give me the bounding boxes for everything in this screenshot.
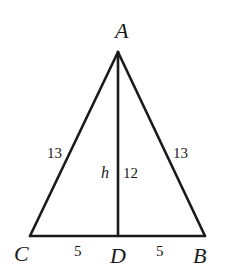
vertex-label-c: C	[14, 241, 29, 266]
side-ab	[118, 52, 205, 236]
vertex-label-a: A	[113, 18, 129, 43]
length-label-ad: 12	[123, 165, 138, 181]
vertex-label-d: D	[109, 243, 126, 268]
vertex-label-b: B	[193, 243, 206, 268]
length-label-db: 5	[156, 243, 164, 259]
length-label-ac: 13	[47, 145, 62, 161]
altitude-name-label: h	[101, 164, 109, 181]
length-label-ab: 13	[173, 145, 188, 161]
triangle-diagram: A C D B 13 13 h 12 5 5	[0, 0, 226, 276]
side-ac	[30, 52, 118, 236]
length-label-cd: 5	[74, 243, 82, 259]
